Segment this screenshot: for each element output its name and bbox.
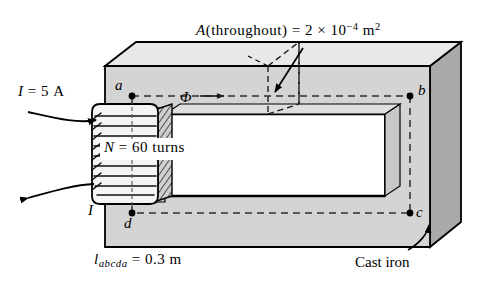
area-base: 10 — [330, 22, 346, 38]
node-label-b: b — [418, 83, 426, 98]
core-drawing — [0, 0, 478, 295]
turns-equals: = — [119, 139, 128, 155]
multiplication-sign: × — [317, 22, 326, 38]
area-symbol: A — [196, 22, 206, 38]
node-label-d: d — [124, 216, 132, 231]
node-dot-c — [407, 210, 414, 217]
magnetic-circuit-figure: A(throughout) = 2 × 10−4 m2 I = 5 A N = … — [0, 0, 478, 295]
current-annotation: I = 5 A — [18, 84, 65, 99]
area-annotation: A(throughout) = 2 × 10−4 m2 — [196, 22, 381, 38]
current-value: 5 — [41, 83, 49, 99]
length-unit: m — [170, 251, 182, 267]
node-dot-b — [407, 93, 414, 100]
core-top-face — [105, 42, 461, 66]
window-inner-side — [385, 104, 400, 196]
area-exponent: −4 — [346, 21, 358, 32]
area-equals: = — [292, 22, 301, 38]
current-equals: = — [28, 83, 37, 99]
return-current-label: I — [88, 203, 93, 218]
node-label-c: c — [416, 205, 423, 220]
turns-value: 60 — [132, 139, 148, 155]
area-unit: m — [363, 22, 375, 38]
current-unit: A — [53, 83, 64, 99]
lead-wire-in — [28, 112, 96, 121]
flux-symbol-label: Φ — [180, 90, 191, 105]
area-mantissa: 2 — [305, 22, 313, 38]
length-value: 0.3 — [145, 251, 165, 267]
node-dot-a — [129, 93, 136, 100]
length-equals: = — [132, 251, 141, 267]
turns-unit: turns — [152, 139, 185, 155]
length-annotation: labcda = 0.3 m — [94, 252, 182, 269]
core-side-face — [430, 42, 461, 247]
material-label: Cast iron — [355, 255, 410, 270]
area-unit-exponent: 2 — [375, 21, 381, 32]
current-symbol: I — [18, 83, 24, 99]
area-qualifier: (throughout) — [206, 22, 288, 38]
turns-symbol: N — [104, 139, 115, 155]
lead-wire-out — [28, 184, 94, 198]
turns-annotation: N = 60 turns — [104, 140, 185, 155]
node-label-a: a — [115, 78, 123, 93]
length-subscript: abcda — [99, 257, 128, 269]
